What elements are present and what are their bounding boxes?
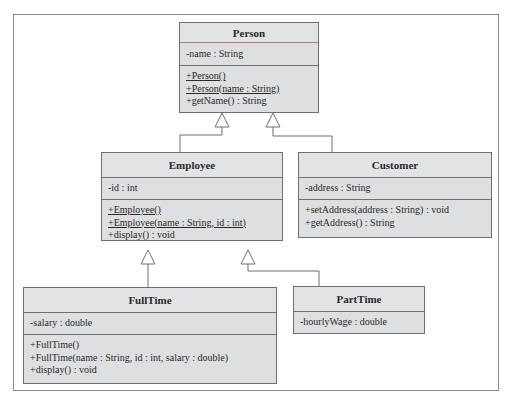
operation: +display() : void: [30, 364, 270, 377]
class-customer[interactable]: Customer -address : String +setAddress(a…: [298, 152, 492, 238]
class-name: Employee: [102, 153, 282, 178]
attributes-section: -hourlyWage : double: [294, 312, 424, 333]
class-name: Customer: [299, 153, 491, 178]
operations-section: +Person() +Person(name : String) +getNam…: [180, 66, 318, 108]
attribute: -name : String: [186, 48, 312, 61]
class-employee[interactable]: Employee -id : int +Employee() +Employee…: [101, 152, 283, 241]
class-fulltime[interactable]: FullTime -salary : double +FullTime() +F…: [23, 287, 277, 384]
attributes-section: -salary : double: [24, 313, 276, 335]
generalization-arrow-icon: [241, 250, 255, 264]
generalization-arrow-icon: [266, 113, 280, 127]
operation: +getAddress() : String: [305, 217, 485, 230]
operation: +FullTime(): [30, 339, 270, 352]
generalization-arrow-icon: [215, 113, 229, 127]
class-name: FullTime: [24, 288, 276, 313]
attributes-section: -id : int: [102, 178, 282, 200]
attributes-section: -address : String: [299, 178, 491, 200]
operation: +setAddress(address : String) : void: [305, 204, 485, 217]
parttime-to-employee-line: [248, 264, 319, 286]
attribute: -address : String: [305, 182, 485, 195]
operations-section: +Employee() +Employee(name : String, id …: [102, 200, 282, 242]
operation: +getName() : String: [186, 95, 312, 108]
attributes-section: -name : String: [180, 43, 318, 66]
employee-to-person-line: [180, 127, 222, 152]
operation: +Employee(name : String, id : int): [108, 217, 276, 230]
operation: +display() : void: [108, 229, 276, 242]
operations-section: +FullTime() +FullTime(name : String, id …: [24, 335, 276, 377]
operation: +Person(name : String): [186, 83, 312, 96]
generalization-arrow-icon: [141, 250, 155, 264]
class-parttime[interactable]: PartTime -hourlyWage : double: [293, 286, 425, 334]
class-person[interactable]: Person -name : String +Person() +Person(…: [179, 22, 319, 113]
operation: +Employee(): [108, 204, 276, 217]
class-name: Person: [180, 23, 318, 43]
attribute: -salary : double: [30, 317, 270, 330]
class-name: PartTime: [294, 287, 424, 312]
attribute: -hourlyWage : double: [300, 316, 418, 329]
operation: +Person(): [186, 70, 312, 83]
operation: +FullTime(name : String, id : int, salar…: [30, 352, 270, 365]
operations-section: +setAddress(address : String) : void +ge…: [299, 200, 491, 229]
attribute: -id : int: [108, 182, 276, 195]
customer-to-person-line: [273, 127, 332, 152]
